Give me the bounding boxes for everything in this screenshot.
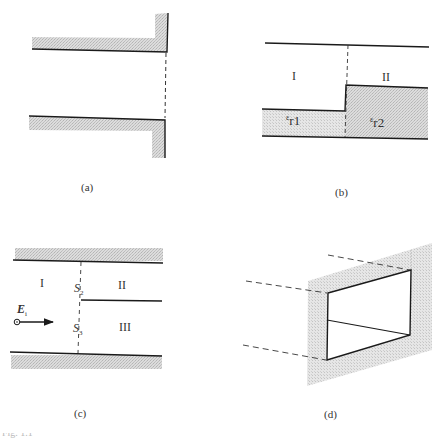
bottom-plate-shading bbox=[11, 355, 162, 369]
region-label-III: III bbox=[119, 320, 131, 335]
septum-line bbox=[81, 300, 162, 301]
caption-c: (c) bbox=[74, 407, 86, 419]
dielectric-region-2 bbox=[346, 85, 428, 139]
source-dot-icon bbox=[16, 321, 18, 323]
dielectric-subscript: r2 bbox=[373, 115, 384, 130]
panel-a bbox=[29, 13, 168, 158]
region-label-II: II bbox=[118, 278, 126, 293]
caption-b: (b) bbox=[335, 186, 348, 198]
dielectric-subscript: r1 bbox=[289, 113, 300, 128]
aperture-plane-dashed bbox=[78, 262, 81, 353]
dielectric-label-1: εr1 bbox=[286, 113, 300, 129]
bottom-wall-flange-shading bbox=[29, 117, 165, 158]
subscript: i bbox=[25, 310, 27, 318]
panel-c bbox=[10, 248, 163, 369]
subscript: 2 bbox=[80, 289, 84, 297]
aperture-label-S2: S2 bbox=[74, 281, 84, 297]
aperture-plane-dashed bbox=[165, 53, 166, 118]
top-wall-line bbox=[265, 43, 429, 47]
top-plate-shading bbox=[15, 248, 163, 261]
caption-a: (a) bbox=[81, 181, 93, 193]
caption-d: (d) bbox=[324, 408, 337, 420]
epsilon-symbol: ε bbox=[286, 113, 289, 122]
top-wall-flange-shading bbox=[32, 13, 167, 52]
subscript: 3 bbox=[79, 329, 83, 337]
epsilon-symbol: ε bbox=[370, 115, 373, 124]
region-label-II: II bbox=[382, 70, 390, 85]
dielectric-label-2: εr2 bbox=[370, 115, 384, 131]
region-label-I: I bbox=[292, 69, 296, 84]
panel-d bbox=[243, 243, 432, 386]
aperture-label-S3: S3 bbox=[73, 321, 83, 337]
dielectric-region-1 bbox=[262, 109, 346, 137]
region-label-I: I bbox=[40, 276, 44, 291]
incident-field-label: Ei bbox=[17, 302, 27, 318]
E-symbol: E bbox=[17, 302, 25, 316]
